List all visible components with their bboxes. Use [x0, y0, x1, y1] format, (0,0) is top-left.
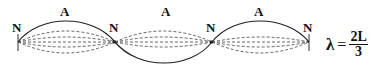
antinode-label: A: [161, 4, 170, 20]
node-label: N: [109, 20, 118, 36]
antinode-label: A: [60, 4, 69, 20]
node-label: N: [12, 20, 21, 36]
standing-wave-diagram: [0, 0, 375, 71]
solid-wave: [18, 21, 309, 63]
node-label: N: [206, 20, 215, 36]
node-marker: [113, 41, 116, 44]
denominator: 3: [355, 45, 362, 59]
node-marker: [210, 41, 213, 44]
numerator: 2L: [349, 30, 367, 45]
node-label: N: [303, 20, 312, 36]
equals-sign: =: [337, 36, 346, 54]
fraction: 2L 3: [349, 30, 367, 59]
wavelength-equation: λ = 2L 3: [326, 30, 368, 59]
dashed-envelopes: [18, 26, 309, 53]
lambda-symbol: λ: [326, 35, 334, 55]
antinode-label: A: [254, 4, 263, 20]
